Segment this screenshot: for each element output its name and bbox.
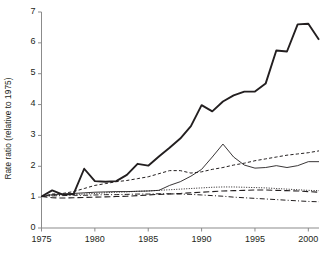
x-tick-label: 1995 bbox=[237, 234, 273, 244]
y-tick-label: 7 bbox=[22, 6, 36, 16]
plot-area bbox=[0, 0, 326, 257]
x-tick-label: 1980 bbox=[77, 234, 113, 244]
data-series-group bbox=[42, 24, 320, 202]
axes bbox=[38, 12, 319, 232]
y-tick-label: 3 bbox=[22, 129, 36, 139]
x-tick-label: 1975 bbox=[24, 234, 60, 244]
x-tick-label: 1990 bbox=[184, 234, 220, 244]
y-tick-label: 5 bbox=[22, 67, 36, 77]
y-tick-label: 6 bbox=[22, 36, 36, 46]
y-tick-label: 1 bbox=[22, 191, 36, 201]
x-tick-label: 1985 bbox=[130, 234, 166, 244]
rate-ratio-line-chart: Rate ratio (relative to 1975) 0123456719… bbox=[0, 0, 326, 257]
y-tick-label: 4 bbox=[22, 98, 36, 108]
y-tick-label: 0 bbox=[22, 222, 36, 232]
y-tick-label: 2 bbox=[22, 160, 36, 170]
x-tick-label: 2000 bbox=[290, 234, 326, 244]
